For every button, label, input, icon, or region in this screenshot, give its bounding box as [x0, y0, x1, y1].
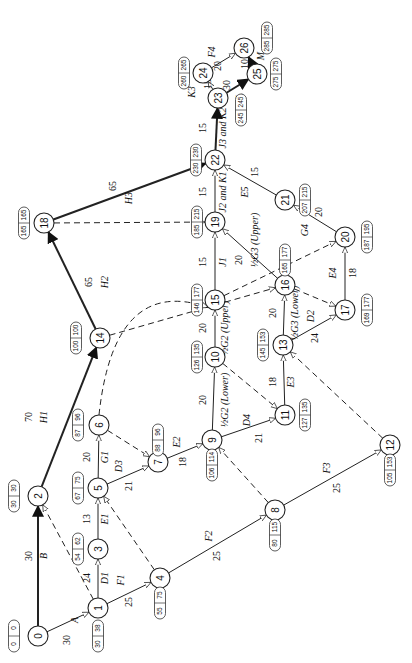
latest-time: 96 [74, 413, 81, 421]
activity-duration-label: 20 [197, 395, 208, 405]
activity-duration-label: 18 [267, 377, 278, 387]
activity-duration-label: 13 [81, 514, 92, 524]
earliest-time: 230 [192, 162, 199, 173]
event-number: 25 [252, 68, 263, 80]
edge-6-7-dummy [107, 430, 149, 456]
activity-duration-label: 20 [233, 255, 244, 265]
latest-time: 100 [72, 324, 79, 335]
latest-time: 75 [74, 476, 81, 484]
event-times-box: 105153 [385, 454, 396, 486]
event-times-box: 146177 [192, 284, 203, 316]
activity-name-label: H1 [38, 411, 49, 424]
activity-name-label: E3 [285, 376, 296, 388]
nodes-layer: 0001303823030354624557556775687967889688… [9, 22, 401, 652]
latest-time: 285 [263, 24, 270, 35]
event-number: 20 [340, 231, 351, 243]
earliest-time: 127 [301, 417, 308, 428]
latest-time: 114 [208, 451, 215, 462]
activity-duration-label: 24 [309, 333, 320, 343]
event-number: 13 [278, 339, 289, 351]
activity-name-label: G4 [299, 224, 310, 236]
event-times-box: 185215 [192, 206, 203, 238]
activity-duration-label: 15 [249, 167, 260, 177]
event-times-box: 106114 [207, 449, 218, 481]
event-times-box: 169177 [362, 294, 373, 326]
activity-name-label: J2 and K1 [217, 171, 228, 212]
event-times-box: 80115 [270, 519, 281, 551]
activity-duration-label: 10 [239, 59, 250, 69]
event-node-0: 0 [28, 626, 48, 646]
latest-time: 38 [94, 624, 101, 632]
event-node-17: 17 [335, 300, 355, 320]
event-number: 11 [280, 409, 291, 420]
edge-8-9-dummy [219, 447, 269, 502]
event-times-box: 3030 [9, 480, 20, 512]
event-node-26: 26 [234, 38, 254, 58]
activity-name-label: D3 [113, 460, 124, 473]
event-number: 19 [210, 216, 221, 228]
earliest-time: 165 [20, 225, 27, 236]
earliest-time: 100 [72, 340, 79, 351]
event-node-24: 24 [193, 63, 213, 83]
network-diagram: A30B30D124F125E113H170G120D321F225E218F3… [0, 0, 412, 663]
activity-name-label: F1 [115, 574, 126, 586]
event-node-15: 15 [205, 290, 225, 310]
activity-duration-label: 20 [267, 308, 278, 318]
earliest-time: 105 [386, 472, 393, 483]
latest-time: 135 [193, 343, 200, 354]
edge-18-22 [53, 163, 205, 219]
event-times-box: 245245 [236, 94, 247, 126]
activity-duration-label: 30 [61, 635, 72, 645]
activity-name-label: F4 [206, 46, 217, 58]
event-number: 10 [210, 351, 221, 363]
event-node-19: 19 [205, 212, 225, 232]
event-node-4: 4 [150, 568, 170, 588]
event-number: 14 [95, 332, 106, 344]
event-times-box: 8896 [153, 424, 164, 456]
activity-duration-label: 21 [253, 433, 264, 443]
event-number: 9 [207, 437, 218, 443]
latest-time: 62 [74, 537, 81, 545]
earliest-time: 55 [156, 607, 163, 615]
event-times-box: 00 [9, 620, 20, 652]
event-times-box: 6775 [73, 472, 84, 504]
earliest-time: 106 [208, 467, 215, 478]
event-times-box: 126135 [192, 341, 203, 373]
event-times-box: 3038 [93, 620, 104, 652]
activity-duration-label: 25 [331, 483, 342, 493]
activity-name-label: A [69, 616, 80, 624]
earliest-time: 126 [193, 359, 200, 370]
activity-name-label: D1 [99, 572, 110, 585]
activity-name-label: ½G3 (Upper) [249, 212, 261, 267]
earliest-time: 146 [193, 302, 200, 313]
latest-time: 245 [237, 96, 244, 107]
event-number: 3 [93, 546, 104, 552]
event-node-22: 22 [205, 150, 225, 170]
event-times-box: 285285 [262, 22, 273, 54]
activity-name-label: D2 [305, 310, 316, 323]
event-times-box: 5575 [155, 587, 166, 619]
event-number: 4 [155, 575, 166, 581]
event-number: 2 [33, 493, 44, 499]
activity-name-label: B [38, 553, 49, 559]
activity-duration-label: 20 [212, 61, 223, 71]
event-node-21: 21 [275, 190, 295, 210]
event-number: 7 [153, 459, 164, 465]
activity-duration-label: 70 [23, 412, 34, 422]
activity-duration-label: 15 [197, 257, 208, 267]
event-times-box: 5462 [73, 533, 84, 565]
activity-duration-label: 20 [313, 207, 324, 217]
activity-duration-label: 65 [107, 181, 118, 191]
event-node-11: 11 [275, 405, 295, 425]
event-number: 26 [239, 42, 250, 54]
latest-time: 115 [271, 521, 278, 532]
event-node-25: 25 [247, 64, 267, 84]
activity-name-label: E5 [239, 186, 250, 198]
event-number: 12 [385, 439, 396, 451]
latest-time: 153 [259, 331, 266, 342]
earliest-time: 80 [271, 539, 278, 547]
event-node-16: 16 [275, 275, 295, 295]
activity-duration-label: 15 [197, 187, 208, 197]
activity-name-label: H2 [99, 276, 110, 289]
latest-time: 195 [363, 223, 370, 234]
